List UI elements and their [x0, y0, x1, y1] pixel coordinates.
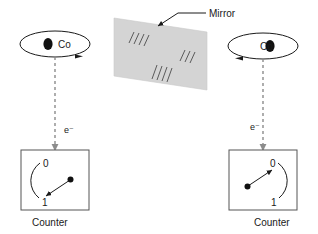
left-electron-label: e⁻: [64, 125, 74, 135]
mirror-label: Mirror: [209, 8, 236, 19]
left-counter-label: Counter: [32, 217, 68, 228]
mirror-leader-line: [158, 13, 206, 26]
left-spin-ellipse: [20, 31, 90, 57]
left-dial-bottom-value: 1: [42, 197, 48, 208]
right-electron-label: e⁻: [250, 122, 260, 132]
left-nucleus-label: Co: [58, 39, 71, 50]
right-counter-label: Counter: [254, 217, 290, 228]
left-nucleus-dot: [43, 38, 52, 50]
left-spin-arrow-icon: [75, 55, 83, 59]
mirror-group: Mirror: [114, 8, 236, 90]
left-dial-top-value: 0: [43, 158, 49, 169]
left-dial-pivot-dot: [68, 177, 74, 183]
right-spin-arrow-icon: [235, 57, 243, 61]
right-dial-top-value: 0: [270, 158, 276, 169]
right-dial-bottom-value: 1: [271, 197, 277, 208]
diagram-canvas: Mirror Co e⁻ 0 1 Counter: [0, 0, 318, 234]
right-system-group: Co e⁻ 0 1 Counter: [228, 33, 298, 228]
mirror-surface: [114, 18, 207, 90]
parity-mirror-svg: Mirror Co e⁻ 0 1 Counter: [0, 0, 318, 234]
right-nucleus-label: Co: [260, 41, 273, 52]
right-dial-pivot-dot: [245, 184, 251, 190]
left-system-group: Co e⁻ 0 1 Counter: [20, 31, 90, 228]
